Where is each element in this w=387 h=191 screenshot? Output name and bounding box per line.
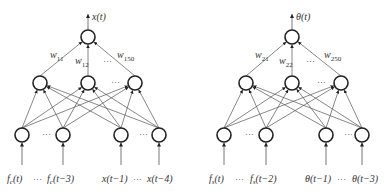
input-node-ellipsis: ··· — [344, 129, 353, 139]
input-node — [217, 128, 231, 142]
input-to-hidden-edge — [139, 90, 159, 128]
neural-network-figure: x(t)w11w12w150············fc(t)fc(t−3)x(… — [0, 0, 387, 191]
weight-label: w12 — [75, 55, 89, 69]
output-label: θ(t) — [296, 11, 311, 23]
input-to-hidden-edge — [121, 90, 133, 128]
weight-ellipsis: ··· — [306, 56, 315, 66]
output-node — [81, 30, 95, 44]
input-node — [319, 128, 333, 142]
input-label-ellipsis: ··· — [133, 174, 142, 184]
input-argument: (t) — [13, 173, 23, 185]
weight-label: w150 — [117, 49, 135, 63]
weight-subscript: 12 — [82, 61, 90, 69]
weight-subscript: 22 — [286, 61, 294, 69]
input-label-ellipsis: ··· — [235, 174, 244, 184]
weight-label: w21 — [255, 49, 269, 63]
input-argument: (t−3) — [53, 173, 75, 185]
input-to-hidden-edge — [47, 86, 159, 128]
input-node — [56, 128, 70, 142]
hidden-node — [285, 76, 299, 90]
hidden-ellipsis: ··· — [111, 77, 120, 87]
input-node-ellipsis: ··· — [245, 129, 254, 139]
input-argument: (t) — [215, 173, 225, 185]
input-symbol: x(t−4) — [146, 173, 173, 185]
input-symbol: θ(t−1) — [305, 173, 332, 185]
input-to-hidden-edge — [224, 90, 243, 128]
hidden-node — [33, 76, 47, 90]
input-to-hidden-edge — [43, 90, 63, 128]
input-node-ellipsis: ··· — [42, 129, 51, 139]
input-to-hidden-edge — [224, 86, 334, 128]
weight-subscript: 250 — [331, 55, 342, 63]
weight-subscript: 11 — [57, 55, 64, 63]
input-node — [15, 128, 29, 142]
input-label-ellipsis: ··· — [33, 174, 42, 184]
hidden-node — [81, 76, 95, 90]
input-node-ellipsis: ··· — [139, 129, 148, 139]
input-label: x(t−4) — [146, 173, 173, 185]
input-label-ellipsis: ··· — [337, 174, 346, 184]
input-label: fc(t−3) — [47, 173, 75, 186]
weight-label: w11 — [50, 49, 64, 63]
input-node — [114, 128, 128, 142]
hidden-node — [334, 76, 348, 90]
input-to-hidden-edge — [63, 90, 84, 128]
input-argument: (t−2) — [256, 173, 278, 185]
weight-ellipsis: ··· — [103, 56, 112, 66]
input-symbol: θ(t−3) — [352, 173, 379, 185]
input-label: fs(t−2) — [250, 173, 277, 186]
input-node — [259, 128, 273, 142]
hidden-ellipsis: ··· — [317, 77, 326, 87]
input-label: x(t−1) — [101, 173, 128, 185]
weight-label: w250 — [324, 49, 342, 63]
network-diagrams: x(t)w11w12w150············fc(t)fc(t−3)x(… — [0, 0, 387, 191]
input-label: θ(t−1) — [305, 173, 332, 185]
input-symbol: x(t−1) — [101, 173, 128, 185]
weight-subscript: 21 — [262, 55, 270, 63]
input-label: θ(t−3) — [352, 173, 379, 185]
input-to-hidden-edge — [22, 90, 37, 128]
hidden-node — [239, 76, 253, 90]
weight-subscript: 150 — [124, 55, 135, 63]
input-to-hidden-edge — [249, 90, 266, 128]
hidden-node — [128, 76, 142, 90]
input-node — [152, 128, 166, 142]
input-node — [355, 128, 369, 142]
output-node — [285, 30, 299, 44]
input-label: fs(t) — [209, 173, 225, 186]
weight-label: w22 — [279, 55, 293, 69]
output-label: x(t) — [91, 11, 107, 23]
input-label: fc(t) — [7, 173, 23, 186]
